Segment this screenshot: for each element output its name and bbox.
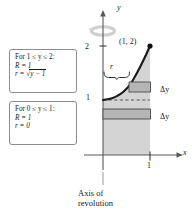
point-marker-1-2: [147, 43, 152, 48]
radius-label: r: [110, 62, 113, 71]
point-label: (1, 2): [119, 37, 136, 46]
axis-of-revolution-caption: Axis of revolution: [78, 188, 113, 208]
slice-upper: [129, 82, 151, 92]
delta-y-label-upper: Δy: [160, 85, 169, 94]
note-box-upper-interval: For 1 ≤ y ≤ 2: R = 1 r = √y − 1: [9, 49, 77, 93]
x-tick-label-1: 1: [147, 161, 151, 170]
rotation-arrow-icon: [89, 27, 115, 35]
axis-of-revolution-line2: revolution: [78, 198, 113, 208]
radius-brace: [104, 72, 130, 79]
note-inner-radius-upper: r = √y − 1: [15, 70, 72, 79]
axis-of-revolution-line1: Axis of: [78, 188, 103, 198]
note-outer-radius-lower: R = 1: [15, 114, 72, 123]
delta-y-label-lower: Δy: [160, 112, 169, 121]
y-axis-arrow-icon: [100, 10, 106, 17]
slice-lower: [103, 109, 151, 119]
x-axis-label: x: [183, 148, 187, 157]
note-inner-radius-prefix-upper: r =: [15, 70, 26, 78]
note-inner-radius-radicand-upper: y − 1: [29, 69, 46, 78]
y-axis-label: y: [117, 3, 121, 12]
note-box-lower-interval: For 0 ≤ y ≤ 1: R = 1 r = 0: [9, 101, 77, 145]
note-condition-upper: For 1 ≤ y ≤ 2:: [15, 53, 72, 62]
y-tick-label-2: 2: [85, 42, 89, 51]
note-condition-lower: For 0 ≤ y ≤ 1:: [15, 105, 72, 114]
y-tick-label-1: 1: [86, 93, 90, 102]
note-inner-radius-lower: r = 0: [15, 122, 72, 131]
